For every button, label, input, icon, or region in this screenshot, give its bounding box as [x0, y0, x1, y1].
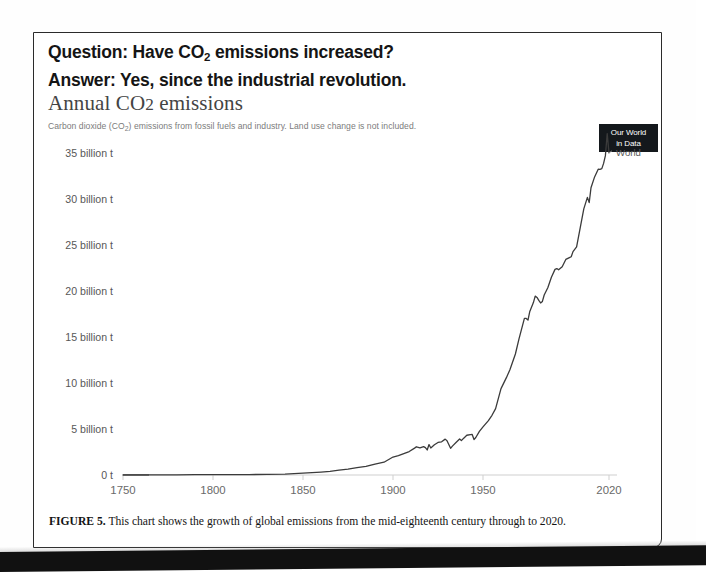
x-tick-label: 1750: [110, 484, 135, 496]
y-tick-label: 35 billion t: [65, 147, 113, 159]
figure-caption: FIGURE 5. This chart shows the growth of…: [49, 515, 649, 528]
x-tick-label: 2020: [596, 484, 621, 496]
figure-card: Question: Have CO2 emissions increased? …: [33, 32, 662, 548]
x-axis-labels: 175018001850190019502020: [110, 484, 621, 496]
question-suffix: emissions increased?: [210, 42, 394, 62]
question-line: Question: Have CO2 emissions increased?: [48, 41, 648, 69]
chart-svg: 0 t5 billion t10 billion t15 billion t20…: [34, 131, 661, 511]
y-tick-label: 25 billion t: [65, 239, 113, 251]
y-tick-label: 30 billion t: [65, 193, 113, 205]
chart-title-suffix: emissions: [154, 91, 243, 115]
chart-title-prefix: Annual CO: [48, 91, 145, 115]
chart-subtitle-suffix: ) emissions from fossil fuels and indust…: [129, 121, 417, 131]
question-prefix: Question: Have CO: [48, 42, 204, 62]
x-axis-ticks: [123, 475, 609, 480]
y-axis-labels: 0 t5 billion t10 billion t15 billion t20…: [65, 147, 113, 481]
caption-text: This chart shows the growth of global em…: [106, 515, 566, 528]
y-tick-label: 15 billion t: [65, 331, 113, 343]
y-tick-label: 10 billion t: [65, 377, 113, 389]
chart-subtitle-prefix: Carbon dioxide (CO: [48, 121, 125, 131]
emissions-line-series: [123, 134, 609, 475]
answer-line: Answer: Yes, since the industrial revolu…: [48, 69, 648, 92]
x-tick-label: 1800: [200, 484, 225, 496]
chart-title-subscript: 2: [145, 95, 154, 114]
x-tick-label: 1950: [470, 484, 495, 496]
chart-container: Annual CO2 emissions Carbon dioxide (CO2…: [34, 91, 661, 511]
x-tick-label: 1900: [380, 484, 405, 496]
figure-number: FIGURE 5.: [49, 515, 106, 528]
x-tick-label: 1850: [290, 484, 315, 496]
chart-title: Annual CO2 emissions: [48, 91, 243, 116]
y-tick-label: 20 billion t: [65, 285, 113, 297]
y-tick-label: 0 t: [101, 469, 113, 481]
series-label-world: World: [616, 147, 641, 158]
plot-area: 0 t5 billion t10 billion t15 billion t20…: [34, 131, 661, 511]
question-answer-header: Question: Have CO2 emissions increased? …: [48, 41, 648, 92]
y-tick-label: 5 billion t: [71, 423, 113, 435]
